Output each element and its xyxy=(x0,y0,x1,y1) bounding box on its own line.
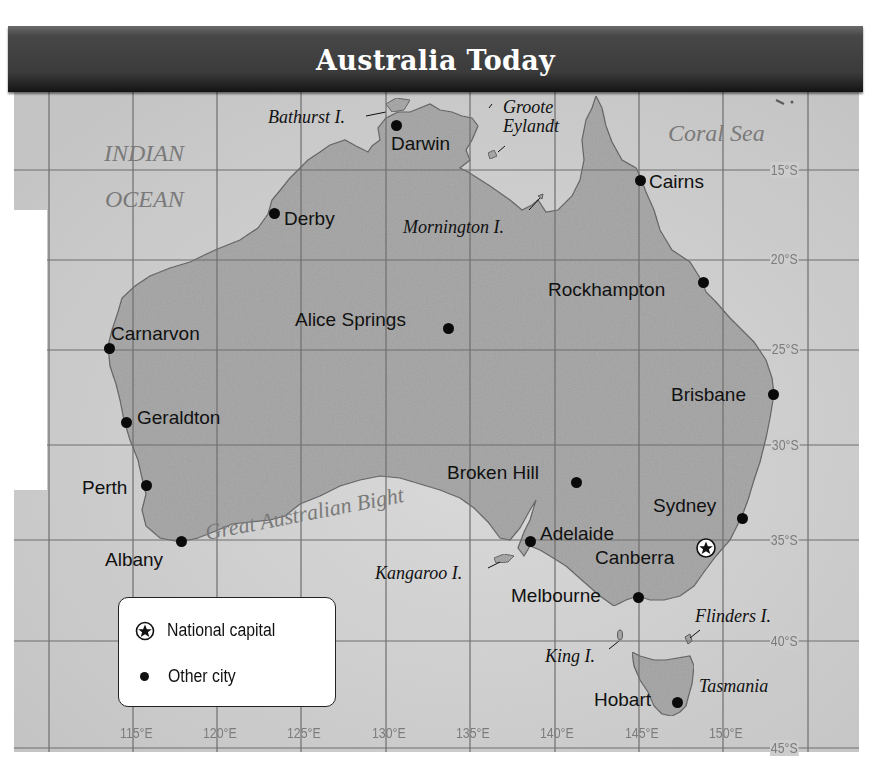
city-dot-rockhampton xyxy=(698,277,709,288)
title-bar: Australia Today xyxy=(8,26,863,92)
city-dot-sydney xyxy=(737,513,748,524)
city-label-cairns: Cairns xyxy=(649,172,704,192)
city-label-carnarvon: Carnarvon xyxy=(111,324,200,344)
map-legend: National capital Other city xyxy=(118,597,336,707)
lon-label-125: 125°E xyxy=(287,725,321,741)
page-margin-cutout xyxy=(0,210,47,490)
lon-label-140: 140°E xyxy=(540,725,574,741)
lat-label-35: 35°S xyxy=(770,532,798,548)
ocean-label-indian: INDIAN xyxy=(104,140,184,166)
legend-label-capital: National capital xyxy=(167,620,275,641)
lon-label-120: 120°E xyxy=(203,725,237,741)
lat-label-20: 20°S xyxy=(770,251,798,267)
city-dot-melbourne xyxy=(633,592,644,603)
lon-label-130: 130°E xyxy=(372,725,406,741)
city-label-hobart: Hobart xyxy=(594,690,651,710)
city-label-sydney: Sydney xyxy=(653,496,716,516)
city-dot-darwin xyxy=(391,120,402,131)
city-dot-albany xyxy=(176,536,187,547)
feature-label-eylandt: Eylandt xyxy=(503,117,559,136)
king-island xyxy=(618,630,623,640)
national-capital-icon xyxy=(135,621,155,641)
city-label-adelaide: Adelaide xyxy=(540,524,614,544)
city-dot-adelaide xyxy=(525,536,536,547)
lon-label-145: 145°E xyxy=(625,725,659,741)
city-label-broken-hill: Broken Hill xyxy=(447,463,539,483)
city-label-geraldton: Geraldton xyxy=(137,408,220,428)
feature-label-king: King I. xyxy=(545,647,595,666)
ocean-label-coral-sea: Coral Sea xyxy=(668,120,765,146)
feature-label-flinders: Flinders I. xyxy=(695,607,771,626)
city-dot-geraldton xyxy=(121,417,132,428)
lat-label-40: 40°S xyxy=(770,633,798,649)
city-label-perth: Perth xyxy=(82,478,127,498)
city-label-darwin: Darwin xyxy=(391,134,450,154)
lat-label-30: 30°S xyxy=(771,437,799,453)
feature-label-bathurst: Bathurst I. xyxy=(268,108,345,127)
city-label-canberra: Canberra xyxy=(595,548,674,568)
city-label-brisbane: Brisbane xyxy=(671,385,746,405)
lat-label-25: 25°S xyxy=(771,341,799,357)
city-label-albany: Albany xyxy=(105,550,163,570)
city-dot-hobart xyxy=(672,697,683,708)
other-city-dot-icon xyxy=(140,672,149,681)
lat-label-45: 45°S xyxy=(770,740,798,756)
city-dot-broken-hill xyxy=(571,477,582,488)
city-label-melbourne: Melbourne xyxy=(511,586,601,606)
feature-label-tasmania: Tasmania xyxy=(699,677,768,696)
capital-star-icon xyxy=(696,538,716,558)
feature-label-groote: Groote xyxy=(503,98,553,117)
city-dot-alice-springs xyxy=(443,323,454,334)
legend-label-other-city: Other city xyxy=(168,666,236,687)
legend-item-capital: National capital xyxy=(135,620,290,641)
city-dot-derby xyxy=(269,208,280,219)
city-dot-perth xyxy=(141,480,152,491)
ocean-label-ocean: OCEAN xyxy=(105,186,184,212)
city-dot-carnarvon xyxy=(104,343,115,354)
feature-label-mornington: Mornington I. xyxy=(403,218,504,237)
city-label-rockhampton: Rockhampton xyxy=(548,280,665,300)
city-dot-cairns xyxy=(635,175,646,186)
city-label-derby: Derby xyxy=(284,209,335,229)
map-title: Australia Today xyxy=(316,45,555,76)
lat-label-15: 15°S xyxy=(770,162,798,178)
lon-label-135: 135°E xyxy=(456,725,490,741)
lon-label-150: 150°E xyxy=(709,725,743,741)
lon-label-115: 115°E xyxy=(120,725,153,741)
city-label-alice-springs: Alice Springs xyxy=(295,310,406,330)
city-dot-brisbane xyxy=(768,389,779,400)
feature-label-kangaroo: Kangaroo I. xyxy=(375,564,462,583)
legend-item-other-city: Other city xyxy=(135,666,245,687)
